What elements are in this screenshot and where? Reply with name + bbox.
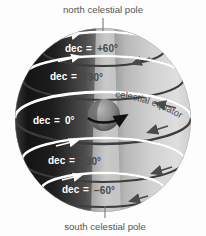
label-dec-plus-60: dec = +60° — [65, 43, 118, 54]
south-celestial-pole-caption: south celestial pole — [64, 221, 146, 232]
label-dec-plus-60-value: +60° — [97, 43, 118, 54]
north-celestial-pole-caption: north celestial pole — [63, 4, 143, 15]
label-dec-minus-30-prefix: dec — [48, 155, 66, 166]
label-dec-plus-30-prefix: dec — [50, 71, 68, 82]
label-dec-minus-30: dec = −30° — [48, 155, 101, 167]
label-dec-minus-60-prefix: dec — [62, 184, 80, 195]
label-dec-minus-60-value: −60° — [94, 185, 115, 196]
label-dec-zero-prefix: dec — [33, 115, 51, 126]
label-dec-plus-30: dec = +30° — [50, 71, 103, 83]
label-dec-zero: dec = 0° — [33, 115, 75, 126]
label-dec-minus-30-equals: = — [69, 155, 75, 166]
label-dec-plus-60-equals: = — [86, 43, 92, 54]
label-dec-zero-equals: = — [54, 115, 60, 126]
label-dec-minus-60-equals: = — [83, 184, 89, 195]
label-dec-minus-60: dec = −60° — [62, 184, 115, 196]
label-dec-plus-30-equals: = — [71, 71, 77, 82]
label-dec-plus-60-prefix: dec — [65, 43, 83, 54]
label-dec-minus-30-value: −30° — [80, 156, 101, 167]
celestial-sphere-diagram: dec = +60° dec = +30° dec = 0° dec = −30… — [0, 0, 206, 236]
label-dec-plus-30-value: +30° — [82, 72, 103, 83]
label-dec-zero-value: 0° — [65, 115, 75, 126]
